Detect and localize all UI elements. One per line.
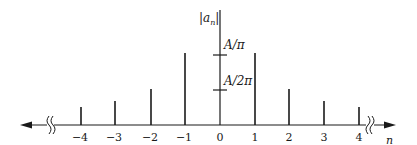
x-axis-label: n bbox=[386, 134, 393, 145]
x-tick-minus-1: −1 bbox=[176, 131, 192, 144]
x-tick-minus-3: −3 bbox=[106, 131, 122, 144]
x-tick-minus-4: −4 bbox=[72, 131, 88, 144]
x-tick-2: 2 bbox=[286, 131, 293, 144]
tick-label-a-2pi: A/2π bbox=[223, 74, 253, 88]
x-tick-1: 1 bbox=[252, 131, 259, 144]
tick-label-a-pi: A/π bbox=[223, 38, 246, 52]
x-tick-3: 3 bbox=[321, 131, 328, 144]
right-axis-break-icon bbox=[366, 116, 374, 134]
spectrum-chart: |an| A/π A/2π −4 −3 −2 −1 0 1 2 3 4 n bbox=[0, 0, 417, 145]
x-tick-0: 0 bbox=[217, 131, 224, 144]
x-tick-4: 4 bbox=[356, 131, 363, 144]
y-axis-label: |an| bbox=[199, 11, 219, 27]
x-tick-labels: −4 −3 −2 −1 0 1 2 3 4 bbox=[72, 131, 363, 144]
x-tick-minus-2: −2 bbox=[142, 131, 158, 144]
right-arrow-icon bbox=[384, 122, 396, 129]
left-arrow-icon bbox=[20, 122, 32, 129]
left-axis-break-icon bbox=[47, 116, 55, 134]
